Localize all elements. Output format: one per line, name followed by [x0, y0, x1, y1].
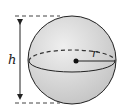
sphere-diagram: h r: [0, 0, 122, 112]
sphere: [28, 16, 116, 104]
height-label: h: [8, 52, 16, 67]
center-point: [74, 59, 79, 64]
radius-label: r: [92, 47, 98, 60]
